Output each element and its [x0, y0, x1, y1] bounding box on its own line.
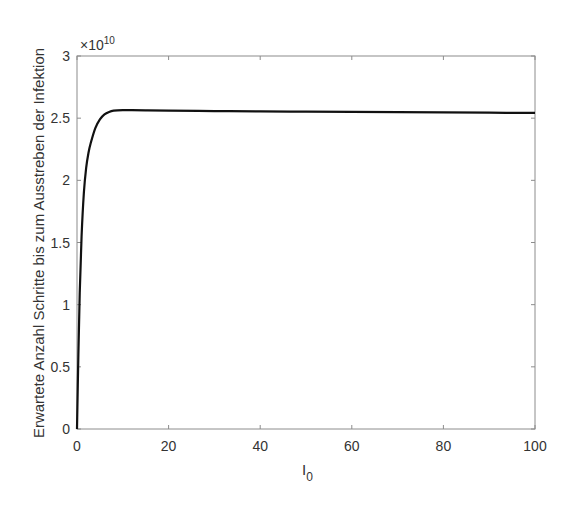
y-tick-label: 2: [62, 172, 70, 188]
y-tick-label: 1.5: [51, 235, 71, 251]
x-tick-label: 0: [73, 438, 81, 454]
y-tick-label: 0: [62, 421, 70, 437]
y-tick-label: 2.5: [51, 110, 71, 126]
x-tick-label: 40: [252, 438, 268, 454]
y-tick-label: 3: [62, 48, 70, 64]
x-tick-label: 60: [344, 438, 360, 454]
x-axis-label: I0: [302, 461, 313, 484]
x-tick-label: 20: [161, 438, 177, 454]
x-tick-label: 100: [523, 438, 547, 454]
y-axis-label: Erwartete Anzahl Schritte bis zum Ausstr…: [30, 48, 47, 438]
y-tick-label: 0.5: [51, 359, 71, 375]
line-chart: 020406080100 00.511.522.53 ×1010 I0 Erwa…: [0, 0, 569, 506]
x-tick-label: 80: [436, 438, 452, 454]
y-tick-label: 1: [62, 297, 70, 313]
y-exponent-label: ×1010: [80, 35, 115, 53]
